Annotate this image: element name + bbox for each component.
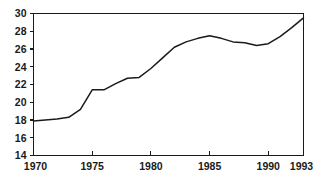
chart-container: 141618202224262830 197019751980198519901…: [0, 0, 322, 179]
x-tick-label: 1980: [139, 160, 163, 172]
y-axis-tick-marks: [30, 14, 34, 156]
x-tick-label: 1993: [290, 160, 314, 172]
y-tick-label: 24: [15, 61, 27, 73]
y-tick-label: 16: [15, 132, 27, 144]
y-tick-label: 20: [15, 96, 27, 108]
x-tick-label: 1975: [81, 160, 105, 172]
line-chart: 141618202224262830 197019751980198519901…: [0, 0, 322, 179]
y-tick-label: 18: [15, 114, 27, 126]
x-axis-tick-marks: [92, 151, 268, 156]
x-tick-label: 1985: [198, 160, 222, 172]
y-tick-label: 26: [15, 43, 27, 55]
y-tick-label: 30: [15, 7, 27, 19]
plot-frame: [34, 14, 304, 156]
x-tick-label: 1970: [24, 160, 48, 172]
y-tick-label: 22: [15, 78, 27, 90]
x-axis-labels: 197019751980198519901993: [24, 160, 314, 172]
y-tick-label: 28: [15, 25, 27, 37]
data-series-line: [34, 18, 304, 121]
y-axis-labels: 141618202224262830: [15, 7, 27, 161]
x-tick-label: 1990: [257, 160, 281, 172]
